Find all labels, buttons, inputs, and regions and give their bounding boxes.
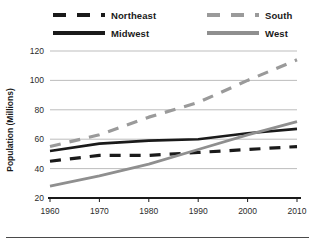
chart-series-lines [50,60,297,186]
chart-x-axis [48,198,301,202]
chart-gridlines [50,51,297,198]
y-tick-label: 40 [35,164,45,174]
chart-plot-area: 20406080100120 196019701980199020002010 … [0,0,315,245]
x-tick-label: 2000 [238,206,257,216]
chart-y-axis-title: Population (Millions) [5,88,15,172]
y-tick-label: 120 [30,46,44,56]
y-tick-label: 60 [35,134,45,144]
series-line-northeast [50,147,297,162]
x-tick-label: 1960 [41,206,60,216]
x-tick-label: 1990 [189,206,208,216]
y-tick-label: 100 [30,75,44,85]
y-tick-label: 80 [35,105,45,115]
x-tick-label: 1980 [139,206,158,216]
series-line-south [50,60,297,147]
figure-bottom-rule [6,237,309,238]
x-tick-label: 2010 [288,206,307,216]
chart-figure: Northeast Midwest South [0,0,315,245]
x-tick-label: 1970 [90,206,109,216]
y-tick-label: 20 [35,193,45,203]
chart-x-tick-labels: 196019701980199020002010 [41,206,307,216]
chart-svg: 20406080100120 196019701980199020002010 … [0,0,315,245]
chart-y-tick-labels: 20406080100120 [30,46,44,203]
